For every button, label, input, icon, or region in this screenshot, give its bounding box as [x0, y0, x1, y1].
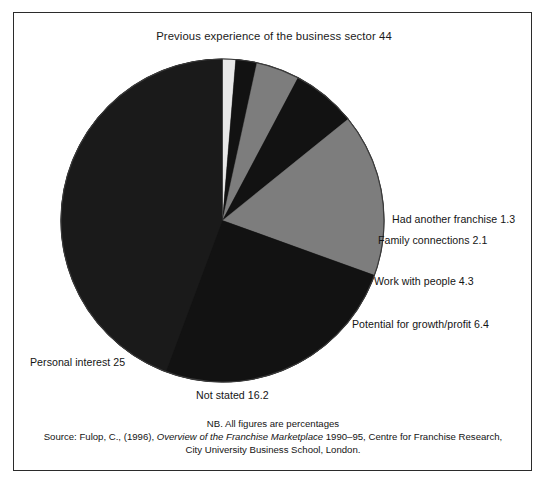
slice-label-potential-for-growth-profit: Potential for growth/profit 6.4: [352, 318, 489, 330]
footnote-note: NB. All figures are percentages: [14, 417, 532, 430]
pie-chart: [60, 58, 385, 383]
footnote-source-line: Source: Fulop, C., (1996), Overview of t…: [14, 430, 532, 443]
footnote-source-line-3: City University Business School, London.: [14, 443, 532, 456]
slice-label-not-stated: Not stated 16.2: [196, 389, 269, 401]
slice-label-had-another-franchise: Had another franchise 1.3: [392, 213, 515, 225]
pie-svg: [60, 58, 385, 383]
pie-slice-group: [61, 59, 384, 382]
slice-label-work-with-people: Work with people 4.3: [374, 275, 474, 287]
footnote-block: NB. All figures are percentages Source: …: [14, 417, 532, 457]
slice-label-family-connections: Family connections 2.1: [378, 234, 487, 246]
source-prefix: Source: Fulop, C., (1996),: [44, 431, 157, 442]
slice-label-personal-interest: Personal interest 25: [30, 356, 125, 368]
pie-chart-figure: Previous experience of the business sect…: [0, 0, 548, 493]
source-suffix: 1990–95, Centre for Franchise Research,: [323, 431, 502, 442]
chart-title: Previous experience of the business sect…: [0, 30, 548, 42]
source-title: Overview of the Franchise Marketplace: [157, 431, 323, 442]
